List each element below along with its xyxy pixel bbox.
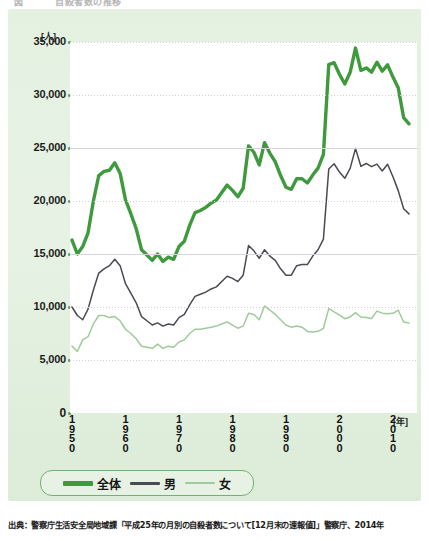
legend-swatch-male-icon [130, 482, 160, 485]
y-axis-tick-label: 35,000 [8, 35, 66, 47]
gridline [70, 307, 417, 308]
legend-label-female: 女 [219, 475, 231, 492]
legend-swatch-total-icon [63, 481, 93, 486]
legend-item-male: 男 [130, 475, 176, 492]
x-axis-tick-label: 1980 [225, 415, 239, 453]
x-axis-tick-label: 2000 [332, 415, 346, 453]
x-axis-unit-label: [年] [393, 415, 408, 428]
x-axis-tick-label: 1950 [65, 415, 79, 453]
y-axis-tick-label: 30,000 [8, 88, 66, 100]
y-axis-tick-label: 5,000 [8, 353, 66, 365]
chart-legend: 全体 男 女 [40, 470, 254, 496]
legend-swatch-female-icon [185, 482, 215, 485]
gridline [70, 42, 417, 43]
x-axis-tick-label: 1970 [172, 415, 186, 453]
source-note: 出典：警察庁生活安全局地域課「平成25年の月別の自殺者数について[12月末の速報… [8, 518, 426, 530]
legend-item-total: 全体 [63, 475, 121, 492]
x-axis-tick-label: 1960 [118, 415, 132, 453]
gridline [70, 360, 417, 361]
gridline [70, 95, 417, 96]
legend-label-total: 全体 [97, 475, 121, 492]
figure-page: 図 自殺者数の推移 [人] 35,00030,00025,00020,00015… [0, 0, 429, 541]
x-axis-tick-label: 1990 [279, 415, 293, 453]
gridline [70, 148, 417, 149]
chart-panel: [人] 35,00030,00025,00020,00015,00010,000… [8, 9, 421, 501]
y-axis-tick-label: 10,000 [8, 300, 66, 312]
legend-label-male: 男 [164, 475, 176, 492]
plot-area [70, 42, 417, 413]
figure-title-cropped: 図 自殺者数の推移 [0, 0, 429, 9]
gridline [70, 254, 417, 255]
y-axis-tick-label: 0 [8, 406, 66, 420]
gridline [70, 201, 417, 202]
figure-title-text: 図 自殺者数の推移 [14, 0, 122, 8]
y-axis-tick-label: 25,000 [8, 141, 66, 153]
legend-item-female: 女 [185, 475, 231, 492]
y-axis-tick-label: 20,000 [8, 194, 66, 206]
gridlines [70, 42, 417, 413]
y-axis-tick-label: 15,000 [8, 247, 66, 259]
